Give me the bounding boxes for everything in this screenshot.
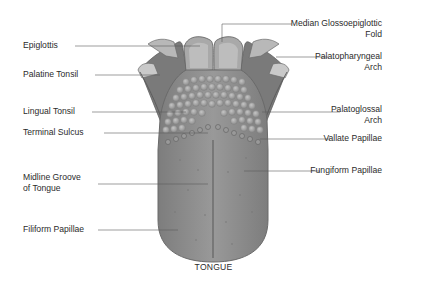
label-terminal-sulcus: Terminal Sulcus <box>23 127 84 138</box>
label-median-glossoepiglottic-fold: Median Glossoepiglottic Fold <box>291 18 382 40</box>
label-epiglottis: Epiglottis <box>23 40 58 51</box>
label-lingual-tonsil: Lingual Tonsil <box>23 106 75 117</box>
label-mgf-line2: Fold <box>291 29 382 40</box>
label-fungiform-papillae: Fungiform Papillae <box>310 165 382 176</box>
label-ppa-line1: Palatopharyngeal <box>315 51 382 62</box>
label-palatoglossal-arch: Palatoglossal Arch <box>331 104 382 126</box>
label-midline-groove: Midline Groove of Tongue <box>23 172 81 194</box>
label-mgf-line1: Median Glossoepiglottic <box>291 18 382 29</box>
label-pga-line1: Palatoglossal <box>331 104 382 115</box>
label-palatopharyngeal-arch: Palatopharyngeal Arch <box>315 51 382 73</box>
label-vallate-papillae: Vallate Papillae <box>323 133 382 144</box>
label-pga-line2: Arch <box>331 115 382 126</box>
label-filiform-papillae: Filiform Papillae <box>23 224 84 235</box>
diagram-title: TONGUE <box>0 262 427 272</box>
label-ppa-line2: Arch <box>315 62 382 73</box>
label-midline-groove-line2: of Tongue <box>23 183 81 194</box>
label-midline-groove-line1: Midline Groove <box>23 172 81 183</box>
label-palatine-tonsil: Palatine Tonsil <box>23 69 78 80</box>
epiglottis-shape <box>184 37 243 72</box>
